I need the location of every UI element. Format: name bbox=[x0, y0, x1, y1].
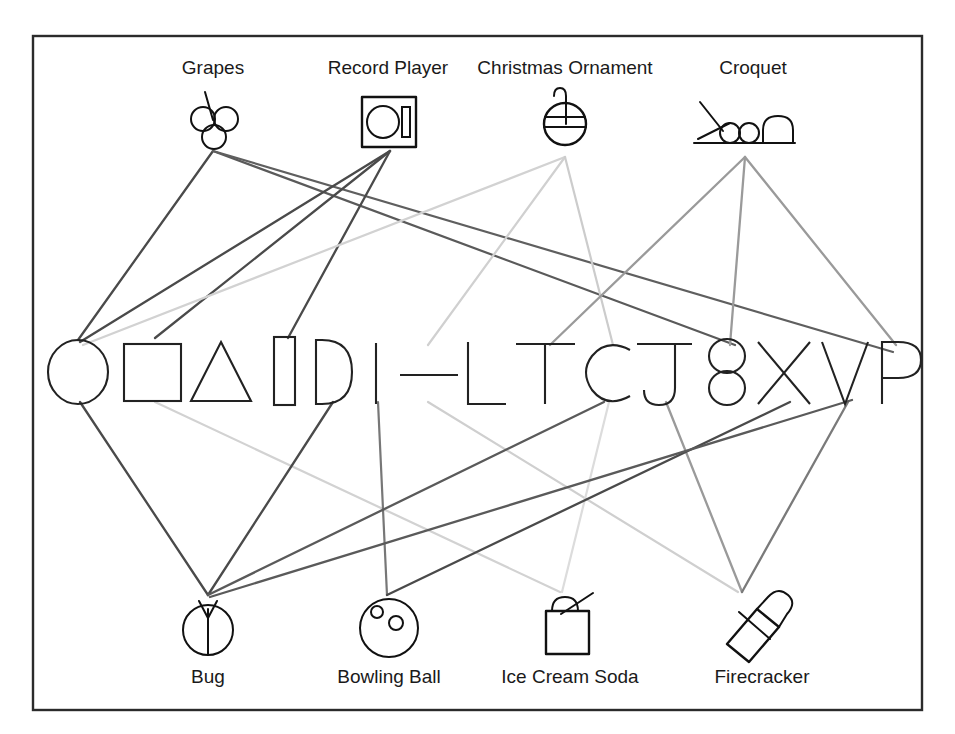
bug-icon bbox=[183, 601, 233, 655]
edge-grapes-to-m0 bbox=[78, 151, 213, 340]
square-shape[interactable] bbox=[124, 344, 181, 401]
edge-grapes-to-m14 bbox=[213, 151, 893, 352]
edge-m6-to-firecracker bbox=[428, 402, 738, 592]
edge-christmas_ornament-to-m0 bbox=[83, 157, 565, 345]
node-croquet[interactable]: Croquet bbox=[694, 57, 795, 143]
grapes-icon bbox=[191, 92, 238, 149]
edge-record_player-to-m0 bbox=[80, 151, 390, 342]
triangle-shape[interactable] bbox=[191, 342, 251, 401]
digit-eight[interactable] bbox=[709, 339, 745, 405]
edges-layer bbox=[78, 151, 896, 597]
letter-d[interactable] bbox=[316, 340, 352, 404]
bipartite-concept-diagram: Grapes Record Player Christ bbox=[0, 0, 955, 734]
christmas-ornament-icon bbox=[544, 88, 586, 145]
circle-shape[interactable] bbox=[48, 340, 108, 404]
node-label-firecracker: Firecracker bbox=[714, 666, 810, 687]
edge-grapes-to-m11 bbox=[213, 151, 735, 345]
node-label-croquet: Croquet bbox=[719, 57, 787, 78]
letter-v[interactable] bbox=[822, 342, 868, 404]
edge-croquet-to-m14 bbox=[745, 157, 896, 345]
letter-c[interactable] bbox=[586, 345, 630, 401]
letter-x[interactable] bbox=[758, 342, 810, 404]
node-label-record-player: Record Player bbox=[328, 57, 449, 78]
edge-croquet-to-m11 bbox=[730, 157, 745, 345]
letter-l[interactable] bbox=[468, 342, 506, 404]
edge-christmas_ornament-to-m9 bbox=[565, 157, 613, 345]
top-nodes-layer: Grapes Record Player Christ bbox=[182, 57, 795, 149]
node-ice-cream-soda[interactable]: Ice Cream Soda bbox=[501, 593, 639, 687]
croquet-icon bbox=[694, 102, 795, 143]
edge-m9-to-ice_cream_soda bbox=[562, 402, 609, 592]
edge-m1-to-ice_cream_soda bbox=[155, 402, 560, 592]
ice-cream-soda-icon bbox=[546, 593, 593, 654]
edge-m9-to-bug bbox=[208, 402, 604, 595]
node-christmas-ornament[interactable]: Christmas Ornament bbox=[477, 57, 653, 145]
middle-row-layer bbox=[48, 337, 921, 405]
node-label-ice-cream-soda: Ice Cream Soda bbox=[501, 666, 639, 687]
letter-j[interactable] bbox=[637, 344, 692, 405]
firecracker-icon bbox=[727, 591, 792, 662]
diagram-frame-border bbox=[33, 36, 922, 710]
node-bug[interactable]: Bug bbox=[183, 601, 233, 687]
edge-croquet-to-m8 bbox=[550, 157, 745, 345]
node-label-bowling-ball: Bowling Ball bbox=[337, 666, 441, 687]
vertical-bar-shape[interactable] bbox=[274, 337, 295, 405]
node-record-player[interactable]: Record Player bbox=[328, 57, 449, 147]
letter-t[interactable] bbox=[516, 344, 575, 404]
edge-record_player-to-m1 bbox=[155, 151, 390, 338]
bottom-nodes-layer: Bug Bowling Ball Ice Cream Soda bbox=[183, 591, 810, 687]
node-label-christmas-ornament: Christmas Ornament bbox=[477, 57, 653, 78]
bowling-ball-icon bbox=[360, 599, 418, 657]
node-label-bug: Bug bbox=[191, 666, 225, 687]
diagram-canvas: Grapes Record Player Christ bbox=[0, 0, 955, 734]
edge-m12-to-bowling_ball bbox=[387, 402, 790, 595]
edge-m5-to-bowling_ball bbox=[378, 402, 387, 595]
node-bowling-ball[interactable]: Bowling Ball bbox=[337, 599, 441, 687]
edge-m13-to-firecracker bbox=[742, 402, 848, 592]
node-label-grapes: Grapes bbox=[182, 57, 244, 78]
node-grapes[interactable]: Grapes bbox=[182, 57, 244, 149]
edge-m0-to-bug bbox=[80, 402, 208, 595]
node-firecracker[interactable]: Firecracker bbox=[714, 591, 810, 687]
record-player-icon bbox=[362, 97, 416, 147]
edge-christmas_ornament-to-m5 bbox=[428, 157, 565, 345]
